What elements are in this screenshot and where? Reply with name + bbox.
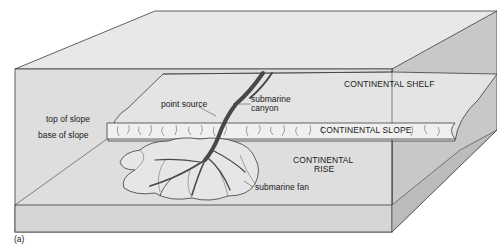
label-continental-shelf: CONTINENTAL SHELF	[344, 79, 435, 89]
label-continental-rise-2: RISE	[314, 164, 334, 174]
label-point-source: point source	[161, 99, 208, 109]
label-continental-slope: CONTINENTAL SLOPE	[320, 125, 412, 135]
panel-label: (a)	[14, 234, 25, 244]
continental-margin-diagram: top of slope base of slope point source …	[0, 0, 497, 246]
label-submarine-fan: submarine fan	[255, 182, 309, 192]
label-top-of-slope: top of slope	[46, 114, 90, 124]
label-base-of-slope: base of slope	[38, 130, 89, 140]
block-bottom-slab	[15, 205, 392, 232]
label-submarine-canyon-2: canyon	[251, 103, 279, 113]
